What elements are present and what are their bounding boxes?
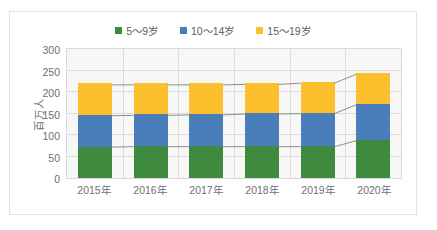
- bar-segment-0[interactable]: [301, 146, 335, 178]
- plot-area: [66, 48, 402, 179]
- bar-segment-0[interactable]: [78, 147, 112, 178]
- stacked-bar[interactable]: [356, 73, 390, 178]
- chart-legend: 5～9岁 10～14岁 15～19岁: [10, 23, 416, 37]
- x-axis-tick: 2020年: [346, 182, 402, 198]
- stacked-bar[interactable]: [245, 83, 279, 178]
- chart-container: 5～9岁 10～14岁 15～19岁 百万人 30025020015010050…: [9, 11, 417, 215]
- bar-segment-2[interactable]: [245, 83, 279, 113]
- x-axis-tick: 2018年: [234, 182, 290, 198]
- legend-swatch-10-14: [180, 27, 187, 34]
- bar-segment-2[interactable]: [356, 73, 390, 104]
- x-axis-labels: 2015年2016年2017年2018年2019年2020年: [66, 182, 402, 198]
- y-axis-tick: 200: [42, 87, 60, 99]
- bar-slot: [234, 49, 290, 178]
- legend-swatch-15-19: [256, 27, 263, 34]
- bar-segment-1[interactable]: [134, 114, 168, 146]
- x-axis-tick: 2015年: [66, 182, 122, 198]
- stacked-bar[interactable]: [189, 83, 223, 178]
- y-axis-tick: 250: [42, 66, 60, 78]
- bar-group: [67, 49, 401, 178]
- bar-segment-2[interactable]: [301, 82, 335, 113]
- bar-segment-1[interactable]: [78, 115, 112, 147]
- bar-segment-0[interactable]: [245, 146, 279, 178]
- bar-slot: [67, 49, 123, 178]
- bar-slot: [178, 49, 234, 178]
- x-axis-tick: 2016年: [122, 182, 178, 198]
- bar-segment-2[interactable]: [78, 83, 112, 114]
- y-axis-tick: 150: [42, 109, 60, 121]
- y-axis-tick: 300: [42, 44, 60, 56]
- legend-item-5-9[interactable]: 5～9岁: [115, 23, 158, 38]
- legend-label-10-14: 10～14岁: [191, 23, 234, 38]
- bar-slot: [123, 49, 179, 178]
- plot-wrapper: 百万人 300250200150100500: [66, 48, 402, 179]
- legend-item-10-14[interactable]: 10～14岁: [180, 23, 234, 38]
- bar-segment-0[interactable]: [356, 140, 390, 178]
- x-axis-tick: 2017年: [178, 182, 234, 198]
- legend-swatch-5-9: [115, 27, 122, 34]
- stacked-bar[interactable]: [301, 82, 335, 178]
- bar-slot: [345, 49, 401, 178]
- bar-segment-1[interactable]: [301, 113, 335, 147]
- stacked-bar[interactable]: [134, 83, 168, 178]
- bar-slot: [290, 49, 346, 178]
- y-axis-tick: 50: [48, 152, 60, 164]
- y-axis-tick: 100: [42, 130, 60, 142]
- bar-segment-0[interactable]: [134, 146, 168, 178]
- bar-segment-0[interactable]: [189, 146, 223, 178]
- bar-segment-2[interactable]: [134, 83, 168, 114]
- stacked-bar[interactable]: [78, 83, 112, 178]
- x-axis-tick: 2019年: [290, 182, 346, 198]
- legend-label-15-19: 15～19岁: [267, 23, 310, 38]
- bar-segment-2[interactable]: [189, 83, 223, 114]
- legend-item-15-19[interactable]: 15～19岁: [256, 23, 310, 38]
- bar-segment-1[interactable]: [189, 114, 223, 146]
- y-axis-tick: 0: [54, 173, 60, 185]
- legend-label-5-9: 5～9岁: [126, 23, 158, 38]
- bar-segment-1[interactable]: [245, 113, 279, 146]
- bar-segment-1[interactable]: [356, 104, 390, 141]
